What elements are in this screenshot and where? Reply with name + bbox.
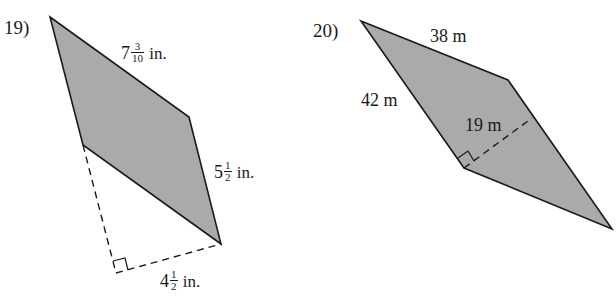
fraction: 310 — [131, 41, 144, 64]
label-20-height: 19 m — [465, 116, 502, 134]
fraction: 12 — [170, 269, 178, 292]
diagram-canvas — [0, 0, 616, 298]
label-19-right-side: 512 in. — [214, 163, 254, 186]
label-whole: 7 — [121, 43, 130, 63]
label-unit: in. — [149, 44, 166, 63]
label-19-height: 412 in. — [160, 272, 200, 295]
label-20-left-side: 42 m — [361, 91, 398, 109]
fraction: 12 — [224, 160, 232, 183]
fraction-denominator: 10 — [131, 53, 144, 64]
label-unit: in. — [237, 163, 254, 182]
label-20-top-side: 38 m — [430, 27, 467, 45]
label-unit: in. — [183, 272, 200, 291]
problem-number-20: 20) — [313, 21, 338, 40]
label-whole: 5 — [214, 162, 223, 182]
height-line-19-horizontal — [116, 244, 221, 273]
fraction-denominator: 2 — [224, 172, 232, 183]
label-19-top-side: 7310 in. — [121, 44, 167, 67]
fraction-denominator: 2 — [170, 281, 178, 292]
problem-number-19: 19) — [4, 18, 29, 37]
label-whole: 4 — [160, 271, 169, 291]
right-angle-marker-19 — [113, 258, 128, 270]
